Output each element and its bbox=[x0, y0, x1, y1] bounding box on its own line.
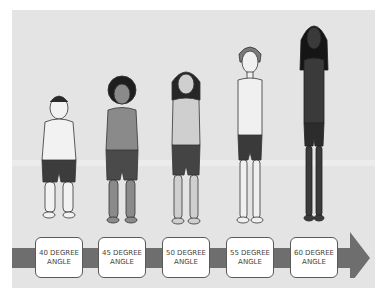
angle-label-60: 60 DEGREE ANGLE bbox=[290, 237, 338, 278]
figure-1 bbox=[42, 96, 76, 218]
angle-label-line1: 45 DEGREE bbox=[102, 249, 142, 258]
angle-label-50: 50 DEGREE ANGLE bbox=[162, 237, 210, 278]
figure-3 bbox=[172, 72, 200, 224]
figure-2 bbox=[106, 76, 138, 223]
angle-label-line2: ANGLE bbox=[110, 258, 134, 267]
angle-label-45: 45 DEGREE ANGLE bbox=[98, 237, 146, 278]
figure-4 bbox=[237, 47, 263, 223]
angle-label-line2: ANGLE bbox=[302, 258, 326, 267]
figure-5 bbox=[300, 26, 328, 221]
angle-label-line2: ANGLE bbox=[47, 258, 71, 267]
angle-label-line2: ANGLE bbox=[238, 258, 262, 267]
angle-label-55: 55 DEGREE ANGLE bbox=[226, 237, 274, 278]
figure-lineup bbox=[12, 10, 375, 235]
angle-label-line1: 40 DEGREE bbox=[39, 249, 79, 258]
angle-label-line1: 50 DEGREE bbox=[166, 249, 206, 258]
angle-label-40: 40 DEGREE ANGLE bbox=[35, 237, 83, 278]
angle-label-line1: 55 DEGREE bbox=[230, 249, 270, 258]
angle-label-line2: ANGLE bbox=[174, 258, 198, 267]
angle-label-line1: 60 DEGREE bbox=[294, 249, 334, 258]
